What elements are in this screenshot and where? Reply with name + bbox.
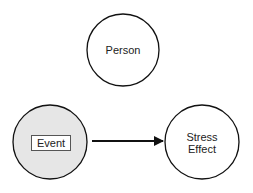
stress-label-line1: Stress bbox=[172, 131, 232, 143]
stress-label-line2: Effect bbox=[172, 143, 232, 155]
person-label: Person bbox=[93, 44, 153, 56]
diagram-canvas bbox=[0, 0, 253, 193]
event-label-box: Event bbox=[31, 135, 71, 151]
